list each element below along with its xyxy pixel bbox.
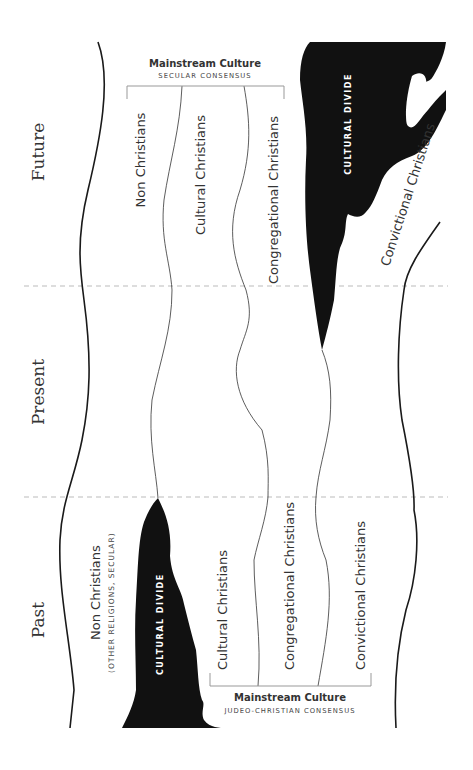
future-line-2	[233, 86, 269, 497]
future-line-1	[151, 86, 182, 498]
right-boundary-curve	[395, 222, 440, 728]
future-group-cultural-christians: Cultural Christians	[193, 115, 208, 235]
diagram-canvas: Future Present Past Mainstream Culture S…	[0, 0, 473, 770]
past-group-non-christians-note: (OTHER RELIGIONS, SECULAR)	[107, 532, 116, 673]
future-cultural-divide-label: CULTURAL DIVIDE	[344, 73, 353, 175]
past-mainstream-subtitle: JUDEO-CHRISTIAN CONSENSUS	[224, 707, 356, 715]
past-group-non-christians: Non Christians	[88, 545, 103, 640]
past-group-cultural-christians: Cultural Christians	[215, 550, 230, 670]
past-line-2	[315, 497, 329, 686]
past-mainstream-title: Mainstream Culture	[234, 692, 346, 703]
future-mainstream-bracket	[127, 86, 284, 99]
past-cultural-divide-label: CULTURAL DIVIDE	[156, 573, 165, 675]
past-group-convictional-christians: Convictional Christians	[353, 521, 368, 670]
past-mainstream-bracket	[210, 673, 371, 686]
cultural-divide-past-shape[interactable]	[122, 498, 226, 728]
future-mainstream-title: Mainstream Culture	[149, 58, 261, 69]
past-group-congregational-christians: Congregational Christians	[282, 502, 297, 670]
era-label-present: Present	[28, 359, 48, 425]
era-label-past: Past	[28, 602, 48, 639]
past-line-1	[254, 497, 268, 686]
era-label-future: Future	[28, 123, 48, 182]
future-group-non-christians: Non Christians	[133, 112, 148, 207]
present-line-3	[316, 350, 331, 497]
future-group-congregational-christians: Congregational Christians	[266, 116, 281, 284]
future-mainstream-subtitle: SECULAR CONSENSUS	[158, 72, 251, 80]
